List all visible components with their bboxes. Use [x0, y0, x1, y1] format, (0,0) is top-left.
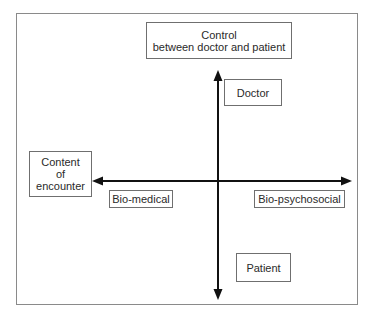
content-line3: encounter: [36, 180, 85, 192]
horizontal-axis-arrow: [92, 177, 352, 186]
bio-medical-label: Bio-medical: [112, 193, 169, 205]
content-line2: of: [36, 168, 85, 180]
bio-psychosocial-label-box: Bio-psychosocial: [254, 190, 345, 208]
bio-psychosocial-label: Bio-psychosocial: [258, 193, 341, 205]
vertical-axis-arrow: [214, 70, 223, 300]
bio-medical-label-box: Bio-medical: [109, 190, 173, 208]
patient-label: Patient: [246, 262, 280, 274]
content-line1: Content: [36, 156, 85, 168]
control-title-box: Control between doctor and patient: [146, 22, 292, 59]
doctor-label-box: Doctor: [224, 79, 282, 106]
doctor-label: Doctor: [237, 87, 269, 99]
patient-label-box: Patient: [236, 253, 291, 282]
content-of-encounter-box: Content of encounter: [29, 151, 92, 197]
control-title-line1: Control: [153, 29, 286, 41]
control-title-line2: between doctor and patient: [153, 41, 286, 53]
